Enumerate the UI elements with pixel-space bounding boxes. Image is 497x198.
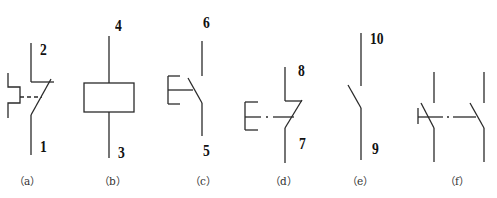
- symbol-d-drawing: [245, 67, 302, 163]
- symbol-a-drawing: [8, 43, 54, 155]
- symbol-c-drawing: [168, 41, 202, 136]
- terminal-label-c-top: 6: [203, 14, 210, 31]
- caption-c: （c）: [190, 176, 216, 187]
- terminal-label-d-bottom: 7: [299, 135, 306, 152]
- symbol-e-drawing: [348, 33, 361, 160]
- caption-e: （e）: [347, 176, 373, 187]
- terminal-label-a-bottom: 1: [40, 138, 47, 155]
- terminal-label-a-top: 2: [40, 41, 47, 58]
- symbol-b-drawing: [84, 36, 134, 158]
- caption-f: （f）: [445, 176, 469, 187]
- terminal-label-b-bottom: 3: [118, 144, 125, 161]
- terminal-label-e-bottom: 9: [372, 140, 379, 157]
- terminal-label-e-top: 10: [370, 30, 384, 47]
- caption-b: （b）: [99, 176, 126, 187]
- terminal-label-d-top: 8: [298, 62, 305, 79]
- diagram: 2 1 4 3 6 5 8 7 10 9 （a） （b） （c） （d） （e）…: [0, 0, 497, 198]
- caption-a: （a）: [14, 176, 40, 187]
- terminal-label-c-bottom: 5: [203, 142, 210, 159]
- diagram-drawing: [0, 0, 497, 198]
- symbol-f-drawing: [418, 72, 484, 162]
- terminal-label-b-top: 4: [115, 17, 122, 34]
- caption-d: （d）: [270, 176, 297, 187]
